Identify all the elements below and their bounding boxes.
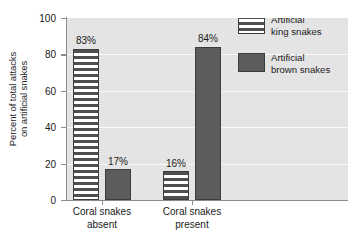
- bar-chart-figure: Percent of total attacks on artificial s…: [0, 0, 357, 245]
- bar-value-king-snakes-present: 16%: [162, 159, 190, 169]
- legend-swatch-solid-icon: [238, 53, 265, 72]
- bar-king-snakes-present: [163, 171, 189, 200]
- legend-item-king-snakes: Artificial king snakes: [238, 18, 348, 37]
- legend-swatch-striped-icon: [238, 18, 265, 34]
- x-category-absent-line1: Coral snakes: [58, 206, 146, 219]
- bar-brown-snakes-absent: [105, 169, 131, 200]
- bar-brown-snakes-present: [195, 47, 221, 200]
- y-axis-title: Percent of total attacks on artificial s…: [2, 0, 36, 199]
- plot-area: Artificial king snakes Artificial brown …: [67, 18, 348, 200]
- y-tick-label-20: 20: [45, 160, 56, 170]
- y-tick-label-80: 80: [45, 50, 56, 60]
- y-tick-label-0: 0: [50, 196, 56, 206]
- legend-label-brown-snakes-line1: Artificial: [271, 52, 330, 64]
- legend: Artificial king snakes Artificial brown …: [238, 18, 348, 91]
- bar-value-king-snakes-absent: 83%: [72, 36, 100, 46]
- y-axis-title-line2: on artificial snakes: [19, 61, 30, 137]
- x-category-present-line1: Coral snakes: [148, 206, 236, 219]
- legend-label-king-snakes: Artificial king snakes: [271, 18, 322, 37]
- legend-label-brown-snakes: Artificial brown snakes: [271, 52, 330, 75]
- x-tick-mark-absent: [102, 201, 103, 205]
- y-tick-label-100: 100: [39, 14, 56, 24]
- x-category-label-absent: Coral snakes absent: [58, 206, 146, 231]
- x-category-absent-line2: absent: [58, 219, 146, 232]
- bar-king-snakes-absent: [73, 49, 99, 200]
- x-axis-line: [66, 200, 348, 201]
- y-tick-label-40: 40: [45, 123, 56, 133]
- legend-label-brown-snakes-line2: brown snakes: [271, 64, 330, 76]
- y-tick-label-60: 60: [45, 87, 56, 97]
- legend-label-king-snakes-line1: Artificial: [271, 18, 322, 26]
- bar-value-brown-snakes-absent: 17%: [104, 157, 132, 167]
- legend-item-brown-snakes: Artificial brown snakes: [238, 52, 348, 75]
- x-tick-mark-present: [192, 201, 193, 205]
- legend-label-king-snakes-line2: king snakes: [271, 26, 322, 38]
- y-axis-line: [66, 17, 67, 201]
- x-category-label-present: Coral snakes present: [148, 206, 236, 231]
- x-category-present-line2: present: [148, 219, 236, 232]
- bar-value-brown-snakes-present: 84%: [194, 34, 222, 44]
